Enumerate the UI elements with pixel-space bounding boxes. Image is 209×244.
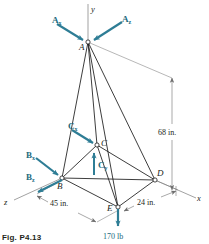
member-AE (88, 42, 118, 207)
dimension-line-span-right-2 (161, 191, 176, 197)
dimension-label-span-right: 24 in. (137, 198, 155, 207)
dimension-line-span-left (37, 196, 48, 202)
axis-label-z: z (3, 197, 8, 207)
node-label-C: C (101, 138, 108, 148)
force-arrow-Bx (36, 158, 58, 175)
force-arrow-Ax (57, 24, 83, 40)
force-label-Az: Az (122, 14, 132, 25)
node-label-E: E (106, 203, 113, 213)
node-E (116, 205, 120, 209)
node-A (86, 40, 90, 44)
leader-bottom (157, 181, 178, 190)
force-arrow-Az (94, 22, 122, 40)
node-C (95, 143, 99, 147)
figure-caption: Fig. P4.13 (2, 233, 62, 244)
force-label-Ax-sub: x (59, 20, 62, 26)
force-label-Ax: Ax (52, 15, 62, 26)
force-label-Bz-sub: z (32, 177, 35, 183)
node-label-B: B (57, 181, 63, 191)
dimension-label-height: 68 in. (158, 128, 176, 137)
load-label: 170 lb (103, 232, 123, 241)
dimension-group (37, 43, 178, 222)
force-label-Cx-sub: x (75, 126, 78, 132)
node-label-D: D (156, 168, 164, 178)
node-D (153, 178, 157, 182)
axis-label-y: y (90, 4, 95, 14)
figure-container: A B C D E y x z Ax Az Bx Bz (0, 0, 209, 244)
truss-members (62, 42, 155, 207)
force-label-Bz: Bz (26, 172, 35, 183)
dimension-label-span-left: 45 in. (50, 199, 68, 208)
dimension-line-span-left-2 (78, 213, 96, 222)
axis-label-x: x (196, 193, 201, 203)
force-label-Cy-sub: y (105, 165, 108, 171)
force-label-Az-sub: z (129, 19, 132, 25)
dimension-line-span-right (124, 206, 134, 211)
truss-diagram: A B C D E y x z Ax Az Bx Bz (0, 0, 209, 244)
force-label-Cx: Cx (68, 121, 78, 132)
force-label-Cy: Cy (98, 160, 108, 171)
force-label-Bx-sub: x (32, 155, 35, 161)
force-arrows (36, 22, 122, 226)
node-B (60, 176, 64, 180)
leader-top (90, 43, 172, 78)
force-label-Bx: Bx (26, 150, 35, 161)
node-label-A: A (78, 42, 85, 52)
